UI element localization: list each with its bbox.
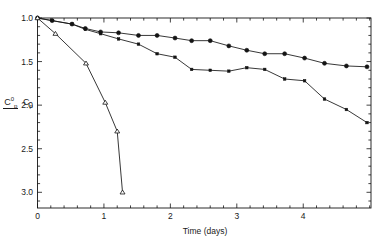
y-axis-title: C0p Cp <box>3 92 33 109</box>
y-axis-ticks <box>38 18 372 201</box>
y-tick-label: 1.0 <box>21 13 33 23</box>
data-point-marker <box>51 19 54 22</box>
data-point-marker <box>283 78 286 81</box>
data-point-marker <box>365 65 369 69</box>
data-point-marker <box>136 33 140 37</box>
data-point-marker <box>303 79 306 82</box>
data-point-marker <box>84 28 87 31</box>
data-point-marker <box>120 190 125 194</box>
chart-canvas: 01234 1.01.52.02.53.0 Time (days) <box>0 0 384 247</box>
series-open-triangles <box>35 16 125 194</box>
data-point-marker <box>71 23 74 26</box>
data-point-marker <box>117 38 120 41</box>
data-point-marker <box>103 100 108 104</box>
x-axis-tick-labels: 01234 <box>35 211 306 221</box>
data-point-marker <box>209 69 212 72</box>
data-point-marker <box>303 56 307 60</box>
data-series-group <box>35 16 369 194</box>
data-point-marker <box>208 39 212 43</box>
data-point-marker <box>156 52 159 55</box>
data-point-marker <box>174 56 177 59</box>
x-axis-title: Time (days) <box>183 226 228 236</box>
data-point-marker <box>263 68 266 71</box>
data-point-marker <box>245 66 248 69</box>
x-tick-label: 4 <box>301 211 306 221</box>
data-point-marker <box>283 52 287 56</box>
data-point-marker <box>155 33 159 37</box>
data-point-marker <box>173 36 177 40</box>
y-axis-title-numerator-superscript: 0 <box>11 96 14 102</box>
data-point-marker <box>323 61 327 65</box>
data-point-marker <box>137 43 140 46</box>
x-tick-label: 3 <box>234 211 239 221</box>
y-axis-title-numerator: C0p <box>3 98 18 109</box>
data-point-marker <box>227 44 231 48</box>
data-point-marker <box>344 64 348 68</box>
y-tick-label: 3.0 <box>21 187 33 197</box>
data-point-marker <box>228 70 231 73</box>
chart-figure: 01234 1.01.52.02.53.0 Time (days) C0p Cp <box>0 0 384 247</box>
series-small-squares <box>36 17 368 124</box>
data-point-marker <box>345 108 348 111</box>
y-axis-title-denominator: Cp <box>23 97 33 107</box>
data-point-marker <box>190 68 193 71</box>
x-tick-label: 1 <box>102 211 107 221</box>
y-tick-label: 1.5 <box>21 57 33 67</box>
y-axis-title-denominator-subscript: p <box>29 103 32 109</box>
series-filled-circles <box>36 16 370 69</box>
data-point-marker <box>245 48 249 52</box>
plot-frame <box>38 18 372 208</box>
y-axis-title-numerator-subscript: p <box>14 103 17 109</box>
data-point-marker <box>263 52 267 56</box>
data-point-marker <box>323 98 326 101</box>
data-point-marker <box>190 39 194 43</box>
data-point-marker <box>366 121 369 124</box>
data-point-marker <box>115 129 120 133</box>
y-tick-label: 2.5 <box>21 144 33 154</box>
x-axis-ticks <box>38 18 370 208</box>
x-tick-label: 2 <box>168 211 173 221</box>
data-point-marker <box>99 32 102 35</box>
data-point-marker <box>117 31 121 35</box>
x-tick-label: 0 <box>35 211 40 221</box>
